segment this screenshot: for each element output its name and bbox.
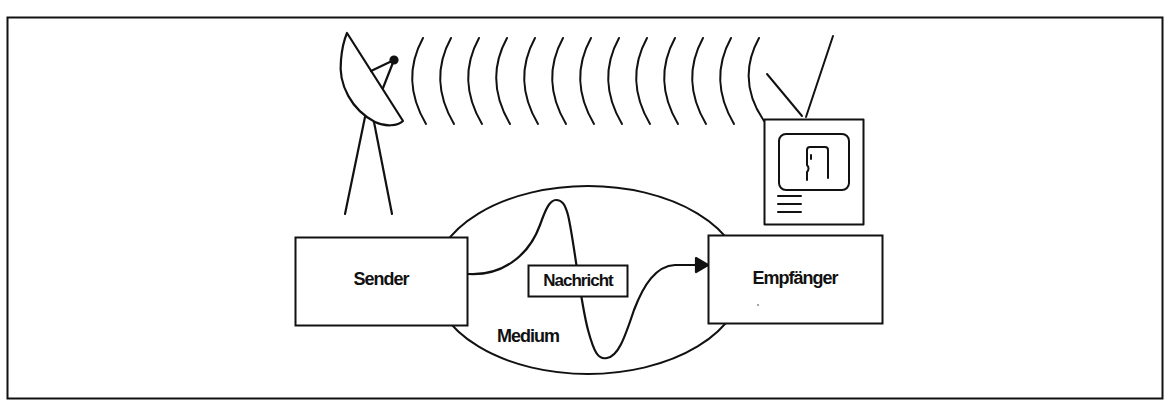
sender-label: Sender	[295, 270, 467, 288]
message-label: Nachricht	[528, 272, 628, 289]
medium-label: Medium	[490, 327, 566, 345]
communication-diagram	[0, 0, 1172, 405]
receiver-label: Empfänger	[708, 269, 882, 287]
diagram-frame	[8, 18, 1163, 399]
